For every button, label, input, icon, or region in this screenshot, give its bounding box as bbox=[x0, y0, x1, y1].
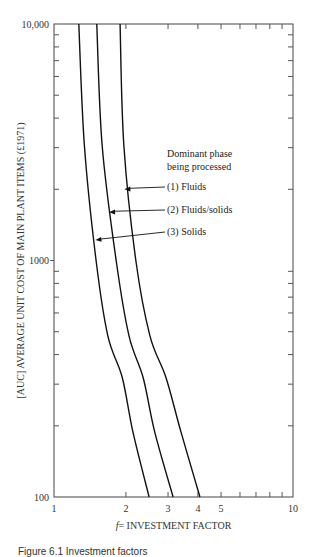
x-axis-label: f= INVESTMENT FACTOR bbox=[116, 520, 232, 531]
x-tick-label: 2 bbox=[123, 503, 128, 514]
y-tick-label: 10,000 bbox=[22, 19, 50, 30]
y-tick-label: 100 bbox=[34, 492, 49, 503]
x-axis-label-text: = INVESTMENT FACTOR bbox=[118, 520, 231, 531]
legend: Dominant phase being processed (1) Fluid… bbox=[95, 148, 232, 242]
x-tick-label: 5 bbox=[219, 503, 224, 514]
chart: 1234510100100010,000 Dominant phase bein… bbox=[0, 0, 313, 545]
legend-title-line-2: being processed bbox=[167, 161, 231, 172]
x-tick-label: 3 bbox=[166, 503, 171, 514]
series-group bbox=[79, 24, 200, 497]
ticks bbox=[50, 24, 293, 497]
legend-entry-fluids: (1) Fluids bbox=[167, 181, 206, 193]
x-tick-label: 4 bbox=[195, 503, 200, 514]
legend-title-line-1: Dominant phase bbox=[167, 148, 233, 159]
x-tick-label: 1 bbox=[52, 503, 57, 514]
series-line-fluids-solids bbox=[97, 24, 173, 497]
legend-arrow-line bbox=[129, 187, 165, 188]
y-tick-label: 1000 bbox=[29, 255, 49, 266]
tick-labels: 1234510100100010,000 bbox=[22, 19, 299, 515]
y-axis-label: [AUC] AVERAGE UNIT COST OF MAIN PLANT IT… bbox=[15, 123, 27, 399]
legend-entry-solids: (3) Solids bbox=[167, 226, 206, 238]
series-line-solids bbox=[79, 24, 149, 497]
legend-entry-fluids-solids: (2) Fluids/solids bbox=[167, 204, 232, 216]
x-tick-label: 10 bbox=[288, 503, 298, 514]
plot-frame bbox=[54, 24, 293, 497]
axes bbox=[54, 24, 293, 497]
legend-arrowhead bbox=[95, 237, 101, 242]
figure-caption: Figure 6.1 Investment factors bbox=[18, 546, 148, 557]
legend-arrow-line bbox=[114, 210, 165, 211]
